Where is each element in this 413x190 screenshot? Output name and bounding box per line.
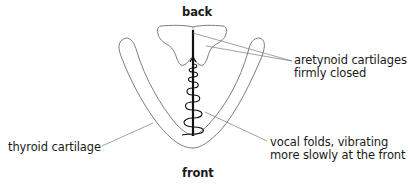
annotation-vocal-folds: vocal folds, vibrating more slowly at th… bbox=[270, 136, 405, 162]
orientation-label-back: back bbox=[182, 6, 212, 19]
annotation-line: firmly closed bbox=[294, 67, 407, 80]
leader-line-thyroid bbox=[102, 123, 153, 146]
annotation-line: more slowly at the front bbox=[270, 149, 405, 162]
annotation-arytenoid-cartilages: aretynoid cartilages firmly closed bbox=[294, 54, 407, 80]
orientation-label-front: front bbox=[182, 167, 214, 180]
annotation-line: thyroid cartilage bbox=[8, 141, 101, 154]
annotation-thyroid-cartilage: thyroid cartilage bbox=[8, 141, 101, 154]
